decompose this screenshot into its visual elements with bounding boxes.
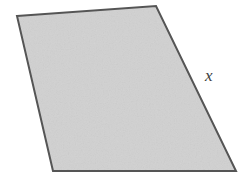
side-length-label-x: x — [205, 67, 213, 84]
figure-canvas — [0, 0, 246, 179]
quadrilateral-texture-overlay — [17, 6, 236, 171]
geometry-figure: x — [0, 0, 246, 179]
